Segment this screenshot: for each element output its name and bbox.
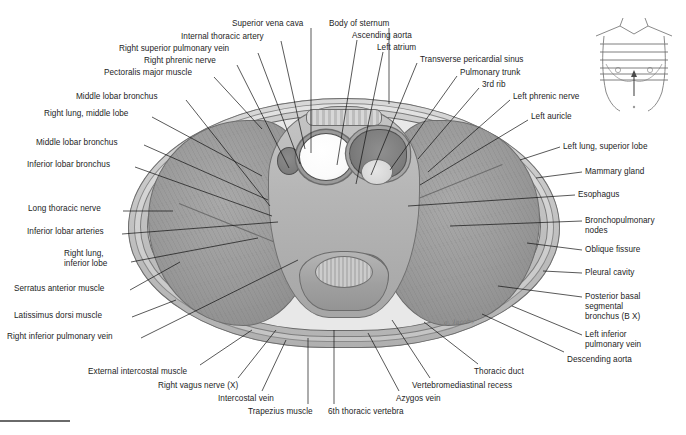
callout-bottom-label: Trapezius muscle — [248, 407, 313, 417]
callout-right-label: Pleural cavity — [585, 268, 634, 278]
thorax-cross-section-illustration: a. Jacobs — [128, 98, 560, 348]
callout-left-label: Serratus anterior muscle — [14, 284, 104, 294]
callout-top-label: Transverse pericardial sinus — [420, 55, 523, 65]
callout-left-label: Inferior lobar bronchus — [27, 160, 110, 170]
torso-orientation-key — [590, 14, 678, 112]
callout-left-label: inferior lobe — [64, 259, 107, 269]
sixth-thoracic-vertebra — [299, 251, 389, 311]
callout-top-label: Ascending aorta — [352, 31, 412, 41]
callout-top-label: 3rd rib — [482, 80, 506, 90]
callout-right-label: nodes — [585, 226, 608, 236]
callout-top-label: Right phrenic nerve — [144, 56, 216, 66]
callout-left-label: Right lung, middle lobe — [44, 109, 128, 119]
callout-top-label: Pulmonary trunk — [460, 68, 520, 78]
superior-vena-cava — [277, 147, 301, 175]
footer-rule — [0, 420, 70, 422]
callout-bottom-label: Thoracic duct — [474, 367, 524, 377]
body-of-sternum — [306, 109, 382, 126]
callout-right-label: Bronchopulmonary — [585, 216, 655, 226]
callout-left-label: Right inferior pulmonary vein — [7, 332, 113, 342]
callout-bottom-label: External intercostal muscle — [88, 367, 187, 377]
callout-bottom-label: Right vagus nerve (X) — [158, 381, 238, 391]
callout-right-label: pulmonary vein — [585, 340, 641, 350]
callout-bottom-label: Descending aorta — [567, 355, 632, 365]
callout-top-label: Left auricle — [531, 112, 572, 122]
vertebral-body — [315, 256, 373, 288]
callout-right-label: Posterior basal — [585, 292, 640, 302]
callout-top-label: Middle lobar bronchus — [76, 92, 158, 102]
callout-right-label: Esophagus — [578, 190, 619, 200]
callout-top-label: Pectoralis major muscle — [104, 68, 192, 78]
callout-top-label: Left atrium — [377, 43, 416, 53]
callout-top-label: Right superior pulmonary vein — [119, 44, 229, 54]
artist-signature: a. Jacobs — [444, 317, 474, 327]
callout-bottom-label: 6th thoracic vertebra — [328, 407, 404, 417]
callout-bottom-label: Vertebromediastinal recess — [412, 381, 512, 391]
callout-left-label: Inferior lobar arteries — [27, 227, 104, 237]
ascending-aorta — [299, 133, 353, 181]
callout-left-label: Middle lobar bronchus — [36, 138, 118, 148]
callout-top-label: Internal thoracic artery — [181, 32, 264, 42]
oblique-fissure-left — [406, 164, 502, 204]
callout-right-label: Oblique fissure — [585, 245, 640, 255]
callout-bottom-label: Azygos vein — [396, 394, 441, 404]
callout-top-label: Body of sternum — [329, 19, 389, 29]
callout-left-label: Latissimus dorsi muscle — [14, 311, 102, 321]
callout-right-label: Left inferior — [585, 330, 627, 340]
callout-right-label: Mammary gland — [585, 167, 644, 177]
callout-right-label: segmental — [585, 302, 623, 312]
thorax-body-wall — [128, 98, 560, 348]
callout-left-label: Right lung, — [64, 249, 104, 259]
callout-left-label: Long thoracic nerve — [28, 204, 101, 214]
callout-right-label: Left lung, superior lobe — [563, 142, 648, 152]
callout-top-label: Left phrenic nerve — [513, 92, 579, 102]
mediastinum — [268, 106, 420, 318]
callout-bottom-label: Intercostal vein — [218, 394, 274, 404]
callout-top-label: Superior vena cava — [232, 19, 303, 29]
oblique-fissure-right — [179, 203, 279, 244]
anatomy-plate: a. Jacobs Superior vena cavaBody of ster… — [0, 0, 686, 435]
callout-right-label: bronchus (B X) — [585, 312, 640, 322]
left-atrium — [361, 159, 393, 185]
